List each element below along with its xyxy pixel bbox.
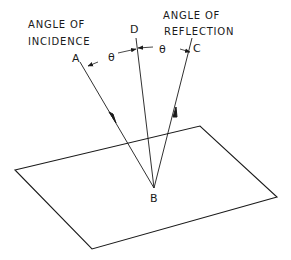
reflecting-plane bbox=[15, 126, 277, 249]
reflection-angle-dim-left bbox=[138, 47, 153, 48]
incidence-caption-line2: INCIDENCE bbox=[28, 36, 90, 47]
point-d-label: D bbox=[130, 23, 138, 36]
reflection-caption-line2: REFLECTION bbox=[164, 26, 234, 37]
reflection-caption-line1: ANGLE OF bbox=[163, 10, 220, 21]
incidence-caption-line1: ANGLE OF bbox=[28, 19, 85, 30]
incidence-angle-dim-right bbox=[118, 49, 136, 53]
incidence-angle-label: θ bbox=[108, 51, 115, 64]
point-c-label: C bbox=[193, 42, 201, 55]
incident-ray bbox=[80, 62, 154, 188]
incident-arrow-icon bbox=[109, 112, 116, 123]
reflection-angle-label: θ bbox=[159, 43, 166, 56]
point-b-label: B bbox=[150, 192, 158, 205]
incidence-angle-dim-left bbox=[88, 62, 98, 66]
normal-line bbox=[136, 38, 154, 188]
reflection-diagram: θ θ A B C D ANGLE OF INCIDENCE ANGLE OF … bbox=[0, 0, 291, 260]
reflected-ray bbox=[154, 38, 192, 188]
point-a-label: A bbox=[72, 52, 80, 65]
